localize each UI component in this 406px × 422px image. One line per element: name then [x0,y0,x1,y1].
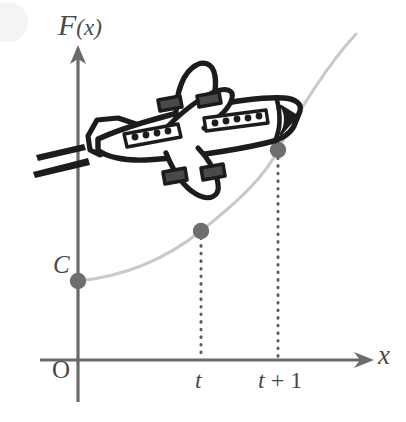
x-tick-label-t-plus-1-base: t [258,367,265,393]
airplane-sketch-icon [88,63,300,197]
airplane-engine-upper-right [197,92,221,107]
x-tick-label-t-plus-1-operator: + [265,367,291,393]
x-tick-label-t: t [195,367,202,394]
airplane-engine-upper-left [158,96,182,111]
y-axis-label-argument: (x) [76,15,102,40]
airplane-engine-lower-left [163,168,187,184]
y-axis-label: F(x) [58,8,102,42]
page-artifact-smudge [0,2,28,42]
x-tick-label-t-plus-1-number: 1 [290,367,302,393]
motion-lines-icon [33,144,90,178]
figure-canvas: F(x) x O C t t + 1 [0,0,406,422]
origin-label: O [52,356,70,384]
x-axis-label: x [378,340,390,371]
point-c [70,273,86,289]
y-intercept-label: C [53,251,70,279]
y-axis-label-function: F [58,8,76,41]
x-tick-label-t-plus-1: t + 1 [258,367,302,394]
point-t [193,223,209,239]
airplane-engine-lower-right [201,164,225,180]
point-t-plus-1 [270,142,286,158]
